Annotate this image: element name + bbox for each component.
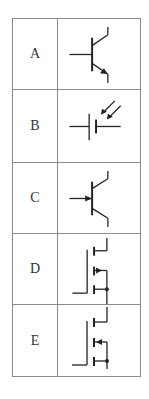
symbol-cell [58,163,140,233]
p-channel-mosfet-icon [58,305,140,376]
table-row-d: D [13,234,140,305]
row-label: D [13,234,58,304]
symbol-cell [58,234,140,304]
symbol-cell [58,305,140,376]
symbol-table: A B [12,18,141,377]
row-label: B [13,90,58,162]
npn-transistor-icon [58,19,140,89]
symbol-cell [58,19,140,89]
row-label: C [13,163,58,233]
row-label: A [13,19,58,89]
table-row-c: C [13,163,140,234]
table-row-a: A [13,19,140,90]
n-channel-mosfet-icon [58,234,140,304]
row-label: E [13,305,58,376]
photovoltaic-cell-icon [58,90,140,162]
symbol-cell [58,90,140,162]
table-row-e: E [13,305,140,376]
table-row-b: B [13,90,140,163]
pnp-transistor-icon [58,163,140,233]
